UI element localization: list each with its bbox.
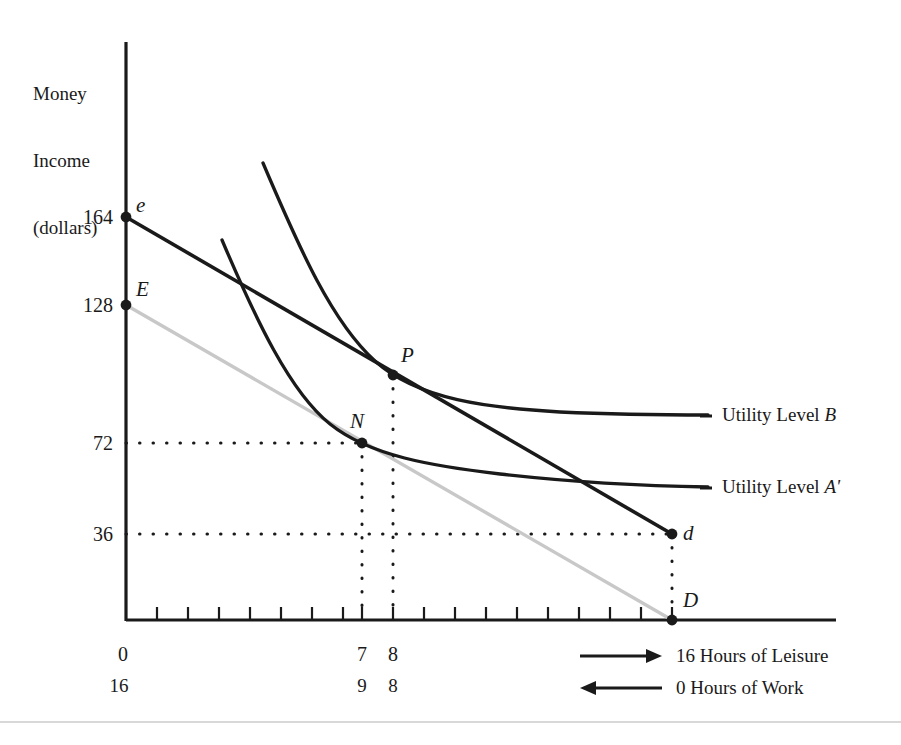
point-label-d: d <box>683 521 694 546</box>
work-axis-label: 0 Hours of Work <box>676 677 803 699</box>
point-label-e: e <box>136 193 145 218</box>
x-axis-ticks <box>157 607 672 620</box>
indifference-curve-chart <box>0 0 901 745</box>
point-N <box>357 438 368 449</box>
y-axis-title-line-2: Income <box>33 150 97 172</box>
y-tick-72: 72 <box>57 432 113 456</box>
point-D <box>667 615 678 626</box>
budget-line-E-D <box>126 305 672 620</box>
legend-utility-level-b-symbol: B <box>824 404 836 425</box>
y-axis-title: Money Income (dollars) <box>33 38 97 284</box>
x-tick-work-8: 8 <box>373 675 413 697</box>
indifference-curve-b <box>263 163 708 415</box>
point-E <box>121 300 132 311</box>
point-label-N: N <box>350 409 364 434</box>
figure-container: Money Income (dollars) 164 128 72 36 0 7… <box>0 0 901 745</box>
point-P <box>388 370 399 381</box>
point-label-P: P <box>401 343 414 368</box>
legend-utility-level-a-text: Utility Level <box>722 476 824 497</box>
point-label-D: D <box>683 588 698 613</box>
bottom-divider <box>0 721 901 723</box>
leisure-axis-label: 16 Hours of Leisure <box>676 645 829 667</box>
point-d <box>667 529 678 540</box>
legend-utility-level-a-prime: Utility Level A' <box>722 476 840 498</box>
budget-line-e-d <box>126 217 672 534</box>
point-e <box>121 212 132 223</box>
y-tick-164: 164 <box>57 206 113 230</box>
legend-utility-level-a-symbol: A' <box>824 476 840 497</box>
x-tick-work-16: 16 <box>99 675 139 697</box>
y-tick-36: 36 <box>57 523 113 547</box>
work-arrow-icon <box>580 681 662 695</box>
leisure-arrow-icon <box>580 649 662 663</box>
indifference-curve-a-prime <box>222 240 708 487</box>
legend-utility-level-b-text: Utility Level <box>722 404 824 425</box>
legend-utility-level-b: Utility Level B <box>722 404 836 426</box>
point-label-E: E <box>136 277 149 302</box>
x-tick-leisure-0: 0 <box>103 643 143 667</box>
y-axis-title-line-1: Money <box>33 83 97 105</box>
y-tick-128: 128 <box>57 294 113 318</box>
x-tick-leisure-8: 8 <box>373 643 413 667</box>
